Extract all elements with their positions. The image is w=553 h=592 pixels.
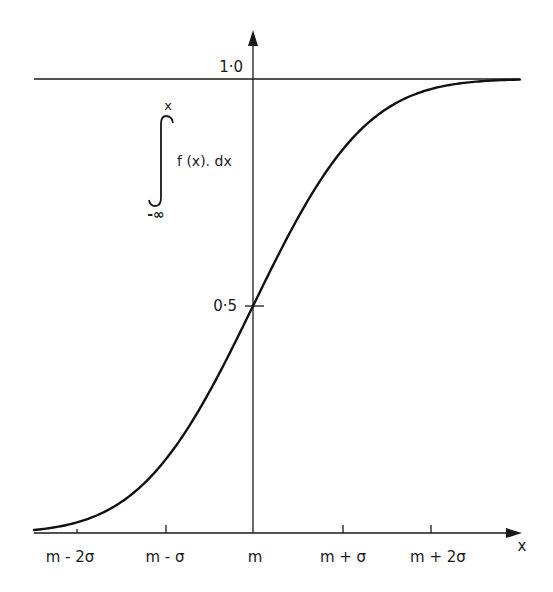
y-axis-label-integral: x f (x). dx -∞ (147, 98, 231, 222)
integral-sign-icon (149, 116, 173, 206)
x-tick-label-m-plus-2sigma: m + 2σ (410, 548, 466, 566)
y-tick-label-1-0: 1·0 (219, 58, 243, 76)
caption-cut-off (0, 585, 553, 592)
x-tick-label-m: m (248, 548, 263, 566)
y-axis-arrow-icon (248, 30, 258, 46)
cdf-curve (34, 80, 520, 530)
integral-lower-limit: -∞ (147, 206, 164, 222)
x-tick-label-m-plus-sigma: m + σ (320, 548, 367, 566)
normal-cdf-chart: 1·0 0·5 m - 2σ m - σ m m + σ m + 2σ x x … (0, 0, 553, 592)
integral-integrand: f (x). dx (177, 153, 232, 169)
x-ticks (77, 525, 431, 533)
x-tick-label-m-minus-2sigma: m - 2σ (46, 548, 95, 566)
x-axis-label: x (518, 537, 527, 555)
integral-upper-limit: x (164, 98, 172, 113)
y-tick-label-0-5: 0·5 (213, 297, 237, 315)
x-tick-label-m-minus-sigma: m - σ (145, 548, 185, 566)
